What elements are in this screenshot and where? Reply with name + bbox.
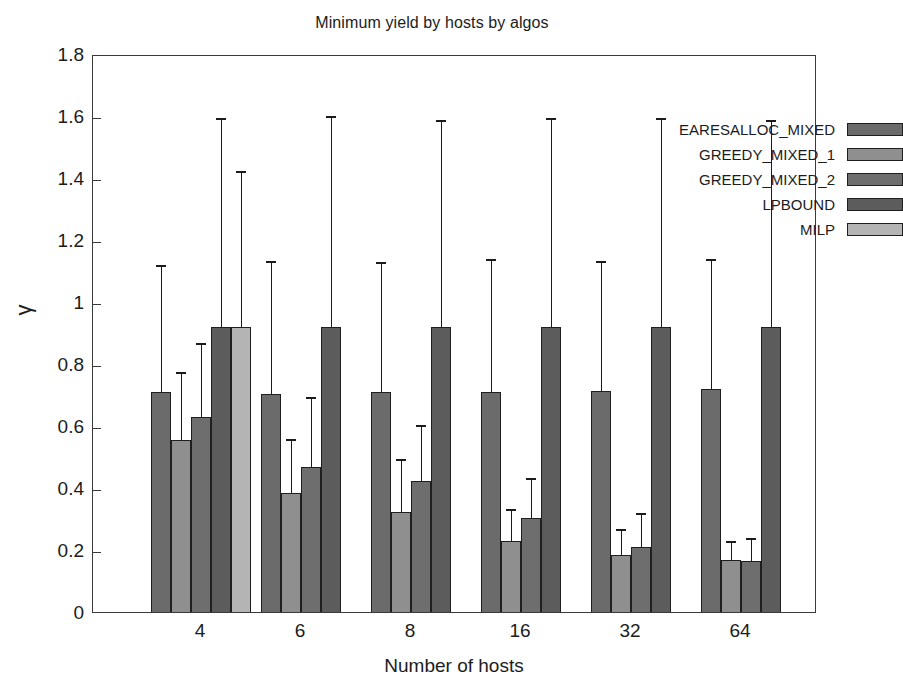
y-tick-label: 0.2 — [58, 540, 84, 562]
error-bar-cap — [216, 118, 226, 120]
bar — [761, 327, 781, 612]
y-tick-label: 0 — [73, 602, 84, 624]
bar — [741, 561, 761, 612]
bar — [541, 327, 561, 612]
error-bar-line — [181, 372, 182, 440]
error-bar-cap — [746, 538, 756, 540]
y-tick-label: 1.6 — [58, 106, 84, 128]
error-bar-cap — [176, 372, 186, 374]
bar — [651, 327, 671, 612]
error-bar-cap — [376, 262, 386, 264]
bar — [631, 547, 651, 612]
legend-swatch — [847, 198, 903, 211]
error-bar-line — [641, 513, 642, 547]
y-tick-label: 0.8 — [58, 354, 84, 376]
error-bar-line — [621, 529, 622, 555]
legend-swatch — [847, 223, 903, 236]
error-bar-line — [271, 261, 272, 394]
error-bar-cap — [236, 171, 246, 173]
bar — [521, 518, 541, 612]
y-tick-label: 1.8 — [58, 44, 84, 66]
bar — [411, 481, 431, 612]
legend-item[interactable]: MILP — [641, 218, 903, 240]
y-tick-mark — [93, 118, 101, 119]
y-tick-mark — [93, 366, 101, 367]
error-bar-line — [221, 118, 222, 327]
bar — [371, 392, 391, 612]
x-tick-label: 16 — [509, 620, 530, 642]
y-tick-mark — [93, 242, 101, 243]
x-tick-label: 64 — [729, 620, 750, 642]
error-bar-line — [491, 259, 492, 392]
legend-label: LPBOUND — [762, 196, 835, 213]
chart-legend: EARESALLOC_MIXEDGREEDY_MIXED_1GREEDY_MIX… — [641, 118, 903, 243]
error-bar-cap — [616, 529, 626, 531]
y-tick-mark — [93, 304, 101, 305]
error-bar-line — [441, 120, 442, 328]
legend-item[interactable]: EARESALLOC_MIXED — [641, 118, 903, 140]
error-bar-cap — [156, 265, 166, 267]
legend-label: GREEDY_MIXED_1 — [699, 146, 835, 163]
y-tick-label: 1.2 — [58, 230, 84, 252]
bar — [501, 541, 521, 612]
error-bar-cap — [546, 118, 556, 120]
bar — [281, 493, 301, 612]
error-bar-line — [311, 397, 312, 467]
legend-item[interactable]: GREEDY_MIXED_1 — [641, 143, 903, 165]
legend-item[interactable]: LPBOUND — [641, 193, 903, 215]
x-tick-label: 32 — [619, 620, 640, 642]
bar — [231, 327, 251, 612]
legend-swatch — [847, 148, 903, 161]
bar — [301, 467, 321, 612]
y-tick-label: 0.6 — [58, 416, 84, 438]
legend-swatch — [847, 123, 903, 136]
x-tick-label: 6 — [295, 620, 306, 642]
error-bar-cap — [266, 261, 276, 263]
error-bar-line — [291, 439, 292, 493]
y-tick-mark — [93, 490, 101, 491]
error-bar-line — [421, 425, 422, 481]
bar — [321, 327, 341, 612]
error-bar-cap — [286, 439, 296, 441]
error-bar-line — [401, 459, 402, 512]
y-axis-tick-labels: 00.20.40.60.811.21.41.61.8 — [0, 0, 84, 695]
error-bar-line — [731, 541, 732, 560]
error-bar-cap — [326, 116, 336, 118]
bar — [191, 417, 211, 612]
error-bar-line — [751, 538, 752, 561]
error-bar-cap — [506, 509, 516, 511]
bar — [261, 394, 281, 612]
y-tick-label: 1 — [73, 292, 84, 314]
bar — [211, 327, 231, 612]
error-bar-cap — [596, 261, 606, 263]
plot-frame: EARESALLOC_MIXEDGREEDY_MIXED_1GREEDY_MIX… — [92, 55, 816, 613]
bar — [151, 392, 171, 612]
legend-swatch — [847, 173, 903, 186]
error-bar-cap — [396, 459, 406, 461]
error-bar-cap — [636, 513, 646, 515]
error-bar-line — [201, 343, 202, 417]
error-bar-cap — [196, 343, 206, 345]
error-bar-cap — [436, 120, 446, 122]
x-axis-label: Number of hosts — [92, 655, 816, 677]
error-bar-cap — [416, 425, 426, 427]
bar — [611, 555, 631, 612]
error-bar-line — [331, 116, 332, 327]
error-bar-cap — [306, 397, 316, 399]
error-bar-cap — [486, 259, 496, 261]
bar — [591, 391, 611, 612]
error-bar-line — [601, 261, 602, 391]
bar — [701, 389, 721, 612]
bar — [721, 560, 741, 612]
y-tick-mark — [93, 428, 101, 429]
error-bar-line — [241, 171, 242, 328]
legend-item[interactable]: GREEDY_MIXED_2 — [641, 168, 903, 190]
legend-label: MILP — [800, 221, 835, 238]
chart-title: Minimum yield by hosts by algos — [0, 14, 864, 32]
error-bar-line — [531, 478, 532, 518]
bar — [481, 392, 501, 612]
bar — [431, 327, 451, 612]
y-tick-mark — [93, 552, 101, 553]
error-bar-cap — [726, 541, 736, 543]
